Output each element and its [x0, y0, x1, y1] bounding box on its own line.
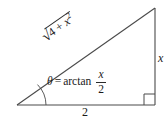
- right-triangle-figure: √4 + x2 θ = arctan x 2 x 2: [0, 0, 166, 122]
- adjacent-side-label: 2: [82, 106, 88, 118]
- fraction-numerator: x: [97, 69, 106, 82]
- angle-label: θ = arctan x 2: [47, 69, 106, 95]
- triangle-drawing: [0, 0, 166, 122]
- theta-symbol: θ: [47, 76, 53, 88]
- arctan-function-name: arctan: [63, 76, 91, 88]
- opposite-side-label: x: [158, 52, 163, 64]
- equals-sign: =: [55, 76, 62, 88]
- x-over-2-fraction: x 2: [96, 69, 106, 95]
- fraction-denominator: 2: [96, 83, 106, 96]
- right-angle-marker-icon: [144, 94, 155, 105]
